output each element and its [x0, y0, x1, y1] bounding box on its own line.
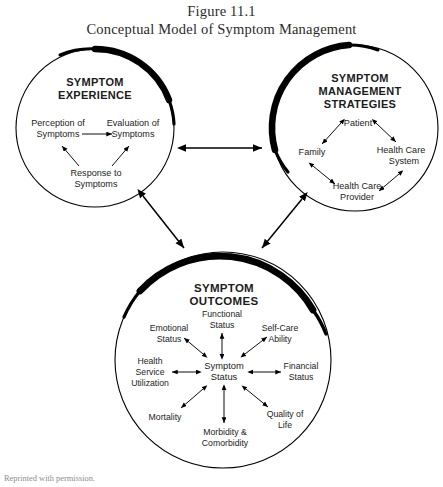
figure-root: Figure 11.1 Conceptual Model of Symptom … [0, 0, 443, 487]
node-functional-status-line-2: Status [210, 320, 235, 330]
experience-heading-line-2: EXPERIENCE [58, 89, 132, 101]
node-health-care-provider-line-1: Health Care [333, 181, 382, 191]
strategies-heading-line-2: MANAGEMENT [318, 85, 401, 97]
outcomes-heading-line-1: SYMPTOM [194, 282, 254, 294]
node-financial-status-line-1: Financial [284, 361, 319, 371]
node-perception-line-1: Perception of [31, 118, 85, 128]
node-evaluation-line-2: Symptoms [112, 129, 155, 139]
node-quality-of-life-line-2: Life [278, 420, 292, 430]
strategies-heading-line-1: SYMPTOM [331, 72, 389, 84]
conceptual-model-diagram: SYMPTOM EXPERIENCE Perception of Symptom… [0, 0, 443, 487]
node-evaluation-line-1: Evaluation of [107, 118, 160, 128]
circle-symptom-management-strategies: SYMPTOM MANAGEMENT STRATEGIES Patient Fa… [272, 45, 438, 211]
connector-strategies-outcomes [262, 199, 302, 248]
node-health-service-utilization-line-1: Health [137, 356, 162, 366]
hub-symptom-status-line-2: Status [211, 371, 238, 382]
outcomes-heading-line-2: OUTCOMES [190, 295, 259, 307]
node-emotional-status-line-1: Emotional [150, 323, 189, 333]
node-health-service-utilization-line-3: Utilization [131, 378, 169, 388]
node-health-care-provider-line-2: Provider [340, 192, 374, 202]
experience-heading-line-1: SYMPTOM [66, 76, 124, 88]
node-self-care-ability-line-2: Ability [268, 334, 292, 344]
node-family-line-1: Family [299, 147, 326, 157]
node-patient-line-1: Patient [344, 118, 373, 128]
node-morbidity-comorbidity-line-2: Comorbidity [202, 438, 249, 448]
circle-symptom-experience: SYMPTOM EXPERIENCE Perception of Symptom… [16, 49, 174, 207]
node-response-line-2: Symptoms [75, 179, 118, 189]
node-morbidity-comorbidity-line-1: Morbidity & [203, 427, 247, 437]
node-health-care-system-line-2: System [389, 156, 419, 166]
node-health-service-utilization-line-2: Service [136, 367, 165, 377]
node-functional-status-line-1: Functional [202, 309, 242, 319]
node-mortality-line-1: Mortality [149, 412, 182, 422]
strategies-heading-line-3: STRATEGIES [324, 98, 396, 110]
node-quality-of-life-line-1: Quality of [267, 409, 304, 419]
circle-symptom-outcomes: SYMPTOM OUTCOMES Symptom Status Function… [115, 252, 331, 468]
node-health-care-system-line-1: Health Care [377, 145, 426, 155]
hub-symptom-status-line-1: Symptom [204, 360, 244, 371]
node-response-line-1: Response to [70, 168, 121, 178]
node-emotional-status-line-2: Status [157, 334, 182, 344]
node-self-care-ability-line-1: Self-Care [262, 323, 299, 333]
node-perception-line-2: Symptoms [37, 129, 80, 139]
node-financial-status-line-2: Status [289, 372, 314, 382]
figure-footer-caption: Reprinted with permission. [4, 474, 254, 487]
connector-experience-outcomes [143, 196, 184, 248]
